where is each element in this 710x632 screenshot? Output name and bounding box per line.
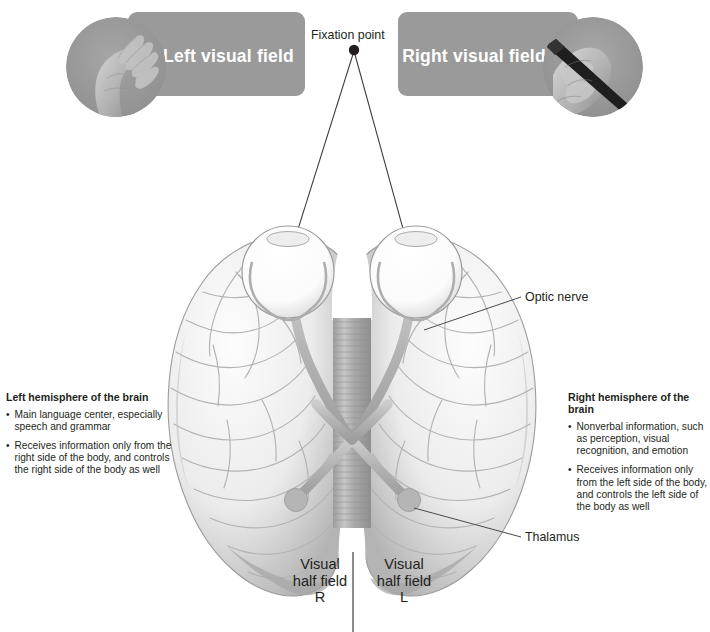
left-hemisphere-info: Left hemisphere of the brain Main langua… [6,391,182,484]
hand-flat-on-surface-photo [66,17,166,117]
figure-canvas: Left visual field Right visual field [0,0,710,632]
vhf-r-line2: half field [288,573,352,590]
list-item: Receives information only from the left … [568,464,710,512]
left-hemisphere-heading: Left hemisphere of the brain [6,391,182,403]
right-hemisphere-heading: Right hemisphere of the brain [568,391,710,415]
vhf-r-line1: Visual [288,556,352,573]
vhf-r-line3: R [288,589,352,606]
vhf-l-line2: half field [372,573,436,590]
thalamus-right-node [398,489,421,512]
visual-half-field-r-label: Visual half field R [288,556,352,606]
vhf-l-line1: Visual [372,556,436,573]
right-hemisphere-bullets: Nonverbal information, such as perceptio… [568,421,710,513]
vhf-l-line3: L [372,589,436,606]
list-item: Nonverbal information, such as perceptio… [568,421,710,457]
thalamus-left-node [285,489,308,512]
left-visual-field-label: Left visual field [163,46,294,67]
fixation-point-dot [349,45,359,55]
visual-half-field-l-label: Visual half field L [372,556,436,606]
optic-nerve-label: Optic nerve [525,290,588,304]
thalamus-label: Thalamus [525,530,579,544]
hand-writing-with-pen-photo [543,17,643,117]
right-hemisphere-info: Right hemisphere of the brain Nonverbal … [568,391,710,520]
list-item: Main language center, especially speech … [6,409,182,433]
right-visual-field-label: Right visual field [402,46,546,67]
fixation-point-label: Fixation point [311,28,385,42]
longitudinal-fissure [332,246,372,320]
left-hemisphere-bullets: Main language center, especially speech … [6,409,182,476]
list-item: Receives information only from the right… [6,440,182,476]
